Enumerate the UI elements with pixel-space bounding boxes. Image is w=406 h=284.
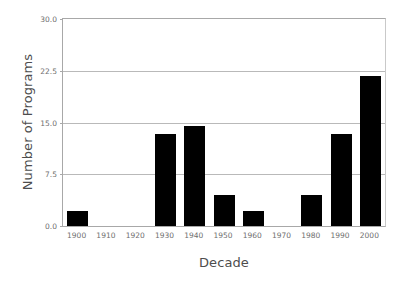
x-tick-label: 1950 bbox=[213, 231, 232, 240]
y-tick-label: 22.5 bbox=[40, 66, 57, 75]
x-tick-label: 1980 bbox=[301, 231, 320, 240]
y-tick-mark bbox=[60, 226, 63, 227]
y-tick-label: 7.5 bbox=[45, 170, 57, 179]
x-tick-label: 1920 bbox=[126, 231, 145, 240]
bars-layer bbox=[63, 19, 385, 226]
x-tick-label: 2000 bbox=[360, 231, 379, 240]
x-axis-title: Decade bbox=[62, 255, 386, 270]
bar bbox=[243, 211, 264, 226]
bar bbox=[360, 76, 381, 226]
bar bbox=[301, 195, 322, 226]
y-tick-label: 30.0 bbox=[40, 15, 57, 24]
x-tick-label: 1940 bbox=[184, 231, 203, 240]
x-tick-label: 1990 bbox=[331, 231, 350, 240]
bar bbox=[214, 195, 235, 226]
x-tick-label: 1960 bbox=[243, 231, 262, 240]
bar-chart-figure: Number of Programs 0.07.515.022.530.0 19… bbox=[0, 0, 406, 284]
x-tick-label: 1930 bbox=[155, 231, 174, 240]
x-tick-label: 1910 bbox=[96, 231, 115, 240]
plot-area: 0.07.515.022.530.0 bbox=[62, 18, 386, 227]
bar bbox=[331, 134, 352, 226]
x-tick-label: 1900 bbox=[67, 231, 86, 240]
bar bbox=[155, 134, 176, 226]
y-tick-label: 15.0 bbox=[40, 118, 57, 127]
x-axis-ticks: 1900191019201930194019501960197019801990… bbox=[62, 231, 386, 247]
x-tick-label: 1970 bbox=[272, 231, 291, 240]
y-axis-title: Number of Programs bbox=[14, 8, 40, 236]
bar bbox=[67, 211, 88, 226]
y-tick-label: 0.0 bbox=[45, 222, 57, 231]
bar bbox=[184, 126, 205, 226]
